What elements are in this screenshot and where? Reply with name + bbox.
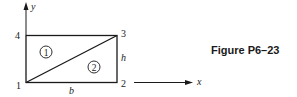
height-label: h — [121, 52, 126, 63]
y-axis-label: y — [30, 1, 36, 12]
element-1-label: 1 — [44, 48, 49, 58]
node-1-label: 1 — [16, 80, 21, 91]
element-2-label: 2 — [92, 63, 97, 73]
element-1-marker: 1 — [40, 46, 52, 58]
y-axis: y — [24, 1, 37, 35]
element-2-marker: 2 — [88, 61, 100, 73]
node-3-label: 3 — [121, 28, 126, 39]
x-axis-label: x — [196, 76, 202, 87]
y-axis-arrowhead-icon — [24, 2, 29, 10]
node-2-label: 2 — [121, 78, 126, 89]
figure-caption: Figure P6–23 — [211, 44, 279, 56]
width-label: b — [69, 85, 74, 96]
x-axis: x — [134, 76, 202, 87]
node-4-label: 4 — [15, 30, 20, 41]
diagonal-edge — [26, 36, 117, 83]
x-axis-arrowhead-icon — [185, 80, 193, 85]
